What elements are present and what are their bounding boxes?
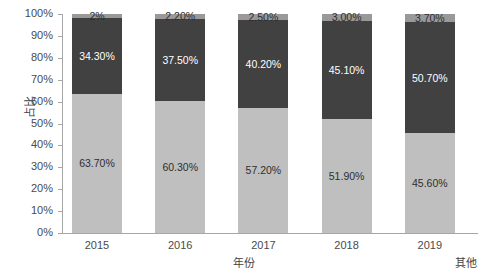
y-tick-label: 100% xyxy=(0,8,53,19)
bar-label-top: 3.00% xyxy=(322,11,372,23)
x-axis-title: 年份 xyxy=(0,254,487,270)
bar-group[interactable]: 60.30%37.50%2.20% xyxy=(155,14,205,233)
x-tick-label: 2015 xyxy=(57,239,137,251)
y-tick-label: 40% xyxy=(0,139,53,150)
y-tick-label: 50% xyxy=(0,118,53,129)
y-tick-label: 90% xyxy=(0,30,53,41)
bar-label-top: 2.50% xyxy=(238,11,288,23)
x-tick-label: 2019 xyxy=(390,239,470,251)
bar-label-bottom: 60.30% xyxy=(155,161,205,173)
bar-group[interactable]: 63.70%34.30%2% xyxy=(72,14,122,233)
bar-label-middle: 45.10% xyxy=(322,64,372,76)
y-tick-label: 70% xyxy=(0,74,53,85)
x-tick-label: 2018 xyxy=(307,239,387,251)
bar-label-bottom: 63.70% xyxy=(72,157,122,169)
plot-area: 63.70%34.30%2%60.30%37.50%2.20%57.20%40.… xyxy=(62,14,478,233)
bar-label-top: 2% xyxy=(72,10,122,22)
bar-label-bottom: 57.20% xyxy=(238,164,288,176)
bar-group[interactable]: 51.90%45.10%3.00% xyxy=(322,14,372,233)
x-tick-label: 2016 xyxy=(140,239,220,251)
legend-item-other: 其他 xyxy=(455,254,477,270)
y-tick-label: 0% xyxy=(0,227,53,238)
y-tick-label: 20% xyxy=(0,183,53,194)
y-tick-label: 30% xyxy=(0,161,53,172)
y-axis-line xyxy=(62,14,63,233)
bar-label-middle: 34.30% xyxy=(72,50,122,62)
bar-label-middle: 37.50% xyxy=(155,54,205,66)
bar-label-top: 3.70% xyxy=(405,12,455,24)
y-tick-label: 60% xyxy=(0,96,53,107)
bar-label-bottom: 45.60% xyxy=(405,177,455,189)
bar-label-bottom: 51.90% xyxy=(322,170,372,182)
bar-label-top: 2.20% xyxy=(155,10,205,22)
bar-group[interactable]: 57.20%40.20%2.50% xyxy=(238,14,288,233)
y-tick-label: 10% xyxy=(0,205,53,216)
y-tick-label: 80% xyxy=(0,52,53,63)
x-axis-line xyxy=(62,233,478,234)
bar-label-middle: 50.70% xyxy=(405,72,455,84)
bar-label-middle: 40.20% xyxy=(238,58,288,70)
stacked-bar-chart: 占比 0%10%20%30%40%50%60%70%80%90%100% 63.… xyxy=(0,0,487,279)
x-tick-label: 2017 xyxy=(223,239,303,251)
bar-group[interactable]: 45.60%50.70%3.70% xyxy=(405,14,455,233)
